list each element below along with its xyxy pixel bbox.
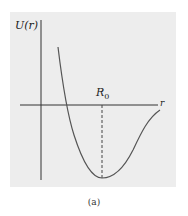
potential-curve — [58, 47, 160, 178]
r0-label-subscript: 0 — [104, 92, 109, 101]
figure-caption: (a) — [0, 197, 188, 207]
y-axis-label: U(r) — [15, 19, 38, 32]
potential-energy-plot — [0, 0, 188, 216]
x-axis-label: r — [160, 98, 164, 108]
r0-label: R0 — [96, 86, 109, 101]
